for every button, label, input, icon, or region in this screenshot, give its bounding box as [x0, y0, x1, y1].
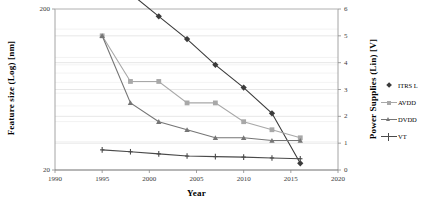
x-tick-label: 1995 — [88, 175, 116, 183]
marker-square — [156, 79, 161, 84]
marker-triangle — [128, 100, 133, 105]
legend-marker — [381, 80, 397, 91]
series-vt — [100, 147, 303, 161]
legend-marker — [381, 131, 397, 142]
legend-marker — [381, 97, 397, 108]
x-tick-label: 2015 — [277, 175, 305, 183]
x-tick-label: 2000 — [135, 175, 163, 183]
x-tick-label: 2010 — [230, 175, 258, 183]
legend-label: AVDD — [398, 99, 416, 106]
x-tick-label: 2005 — [183, 175, 211, 183]
legend-label: VT — [398, 133, 407, 140]
chart-figure: Feature size (Log) [nm] Power Supplies (… — [0, 0, 423, 209]
cross-marker-icon — [388, 133, 389, 141]
series-dvdd — [99, 33, 303, 142]
y-tick-label-right: 2 — [344, 112, 360, 120]
y-tick-label-right: 0 — [344, 166, 360, 174]
series-avdd — [100, 33, 303, 140]
legend-item-dvdd[interactable]: DVDD — [381, 111, 423, 128]
triangle-marker-icon — [386, 117, 390, 121]
marker-square — [185, 101, 190, 106]
y-tick-label-right: 1 — [344, 139, 360, 147]
series-line — [102, 36, 300, 138]
x-tick-label: 2020 — [324, 175, 352, 183]
marker-square — [241, 119, 246, 124]
marker-square — [128, 79, 133, 84]
diamond-marker-icon — [386, 82, 392, 88]
legend-item-itrs-l[interactable]: ITRS L — [381, 77, 423, 94]
y-tick-label-left: 200 — [28, 5, 50, 13]
legend-label: DVDD — [398, 116, 417, 123]
marker-square — [213, 101, 218, 106]
y-tick-label-right: 5 — [344, 32, 360, 40]
legend-item-vt[interactable]: VT — [381, 128, 423, 145]
x-tick-label: 1990 — [41, 175, 69, 183]
square-marker-icon — [387, 101, 391, 105]
chart-legend: ITRS LAVDDDVDDVT — [381, 77, 423, 145]
legend-marker — [381, 114, 397, 125]
legend-label: ITRS L — [398, 82, 418, 89]
marker-square — [270, 127, 275, 132]
legend-item-avdd[interactable]: AVDD — [381, 94, 423, 111]
y-tick-label-right: 4 — [344, 59, 360, 67]
y-tick-label-right: 6 — [344, 5, 360, 13]
y-tick-label-right: 3 — [344, 86, 360, 94]
y-tick-label-left: 20 — [28, 166, 50, 174]
